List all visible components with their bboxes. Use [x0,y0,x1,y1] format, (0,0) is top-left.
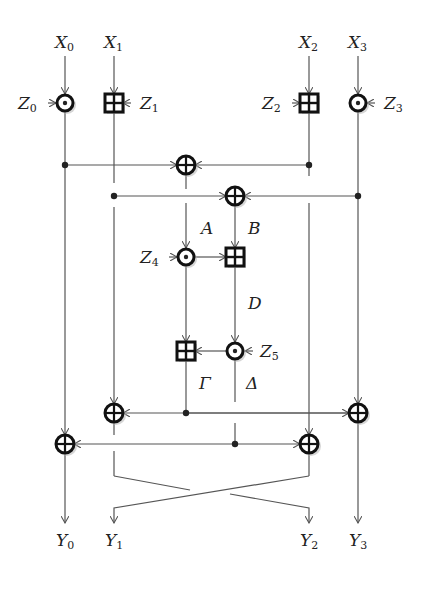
junction-dot [111,193,117,199]
label-d: D [247,293,262,313]
input-label-x3: X3 [346,32,367,54]
key-label-z5: Z5 [259,341,279,363]
output-label-y2: Y2 [300,530,318,552]
key-label-z1: Z1 [139,93,159,115]
input-label-x1: X1 [102,32,123,54]
add-op-z2 [300,94,320,114]
output-label-y3: Y3 [349,530,367,552]
svg-text:Z4: Z4 [139,247,159,269]
key-label-z3: Z3 [383,93,403,115]
input-label-x2: X2 [297,32,318,54]
input-label-x0: X0 [53,32,74,54]
multiply-op-z0 [57,95,76,114]
svg-text:Z0: Z0 [17,93,37,115]
output-label-y1: Y1 [105,530,123,552]
svg-text:Y1: Y1 [105,530,123,552]
swap-wire-b [114,476,309,523]
key-label-z0: Z0 [17,93,37,115]
key-label-z4: Z4 [139,247,159,269]
label-a: A [199,218,213,238]
svg-text:Z3: Z3 [383,93,403,115]
label-delta: Δ [245,373,258,393]
svg-text:Y3: Y3 [349,530,367,552]
xor-op-col1 [105,404,126,425]
multiply-op-z4 [178,249,197,268]
junction-dot [306,162,312,168]
svg-text:X0: X0 [53,32,74,54]
svg-text:X2: X2 [297,32,318,54]
svg-text:Z5: Z5 [259,341,279,363]
add-op-gamma [177,342,197,362]
xor-op-col0 [56,435,77,456]
xor-op-row1 [177,156,198,177]
cipher-round-diagram: X0 X1 X2 X3 Z0 Z1 Z2 Z3 [0,0,432,606]
svg-text:Z2: Z2 [261,93,281,115]
svg-text:X3: X3 [346,32,367,54]
multiply-op-z3 [350,95,369,114]
junction-dot [62,162,68,168]
junction-dot [232,441,238,447]
swap-wire-a1 [114,476,190,490]
svg-text:Y2: Y2 [300,530,318,552]
add-op-b [226,248,246,268]
key-label-z2: Z2 [261,93,281,115]
label-gamma: Γ [198,373,212,393]
svg-text:X1: X1 [102,32,123,54]
junction-dot [183,410,189,416]
output-label-y0: Y0 [56,530,74,552]
xor-op-col2 [300,435,321,456]
xor-op-col3 [349,404,370,425]
multiply-op-z5 [227,343,246,362]
swap-wire-a2 [230,494,309,523]
svg-text:Z1: Z1 [139,93,159,115]
label-b: B [247,218,261,238]
svg-text:Y0: Y0 [56,530,74,552]
junction-dot [355,193,361,199]
xor-op-row2 [226,187,247,208]
add-op-z1 [105,94,125,114]
